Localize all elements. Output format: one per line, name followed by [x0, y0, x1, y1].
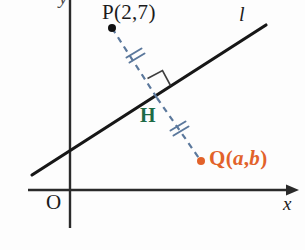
- tick-marks-ph-icon: [127, 49, 145, 63]
- point-q-label-b: b: [249, 146, 260, 170]
- point-q-label-a: a: [233, 146, 244, 170]
- point-q-label-suffix: ): [260, 146, 267, 170]
- point-p-label: P(2,7): [102, 2, 156, 23]
- segment-hq: [157, 98, 201, 161]
- point-h-label: H: [140, 105, 156, 125]
- x-axis-label: x: [283, 194, 291, 213]
- point-p-dot: [108, 24, 116, 32]
- y-axis-label: y: [59, 0, 67, 7]
- segment-ph: [112, 28, 157, 98]
- point-q-label-prefix: Q(: [209, 146, 233, 170]
- geometry-figure: y P(2,7) l H Q(a,b) O x: [0, 0, 305, 250]
- origin-label: O: [46, 192, 61, 213]
- right-angle-marker-icon: [148, 71, 171, 86]
- point-q-label: Q(a,b): [209, 148, 267, 169]
- point-q-dot: [197, 157, 205, 165]
- line-l-label: l: [239, 4, 245, 24]
